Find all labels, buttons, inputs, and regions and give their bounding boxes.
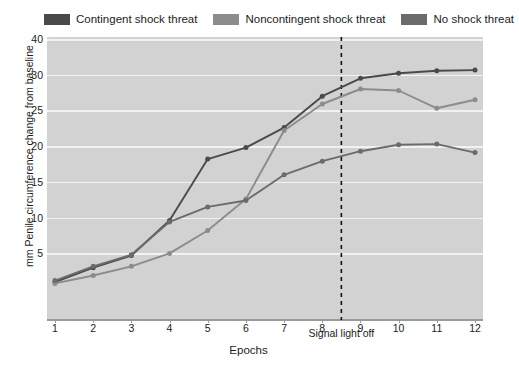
series-line-0 — [55, 70, 475, 282]
x-tick-label: 10 — [393, 322, 405, 334]
data-point — [473, 150, 478, 155]
data-point — [473, 68, 478, 73]
x-axis-title: Epochs — [0, 344, 497, 356]
x-tick-mark — [55, 319, 56, 323]
x-tick-label: 3 — [128, 322, 134, 334]
data-point — [396, 71, 401, 76]
data-point — [320, 159, 325, 164]
data-point — [205, 204, 210, 209]
x-tick-mark — [437, 319, 438, 323]
data-point — [434, 68, 439, 73]
series-line-1 — [55, 89, 475, 283]
x-tick-label: 9 — [358, 322, 364, 334]
data-point — [243, 198, 248, 203]
x-tick-mark — [246, 319, 247, 323]
signal-light-off-annotation: Signal light off — [308, 327, 374, 339]
x-tick-label: 2 — [90, 322, 96, 334]
data-point — [205, 228, 210, 233]
data-point — [282, 128, 287, 133]
data-point — [320, 102, 325, 107]
data-point — [396, 88, 401, 93]
x-tick-mark — [399, 319, 400, 323]
x-tick-label: 1 — [52, 322, 58, 334]
data-point — [243, 145, 248, 150]
x-tick-mark — [322, 319, 323, 323]
y-axis-title: mm Penile circumference change from base… — [23, 31, 35, 281]
data-point — [473, 97, 478, 102]
data-point — [396, 142, 401, 147]
data-point — [358, 87, 363, 92]
data-point — [129, 252, 134, 257]
x-tick-label: 12 — [469, 322, 481, 334]
x-tick-mark — [131, 319, 132, 323]
data-point — [358, 76, 363, 81]
x-tick-mark — [208, 319, 209, 323]
data-point — [320, 94, 325, 99]
x-tick-mark — [284, 319, 285, 323]
x-tick-label: 7 — [281, 322, 287, 334]
x-tick-mark — [475, 319, 476, 323]
x-tick-label: 5 — [205, 322, 211, 334]
data-point — [434, 106, 439, 111]
data-point — [282, 172, 287, 177]
x-tick-mark — [93, 319, 94, 323]
data-point — [205, 157, 210, 162]
data-point — [53, 278, 58, 283]
x-tick-mark — [170, 319, 171, 323]
x-tick-label: 8 — [319, 322, 325, 334]
data-point — [358, 149, 363, 154]
x-tick-label: 6 — [243, 322, 249, 334]
data-point — [167, 219, 172, 224]
data-point — [167, 251, 172, 256]
x-tick-label: 4 — [167, 322, 173, 334]
data-point — [91, 264, 96, 269]
data-point — [91, 273, 96, 278]
x-tick-mark — [360, 319, 361, 323]
data-point — [129, 264, 134, 269]
x-tick-label: 11 — [431, 322, 442, 334]
data-point — [434, 142, 439, 147]
